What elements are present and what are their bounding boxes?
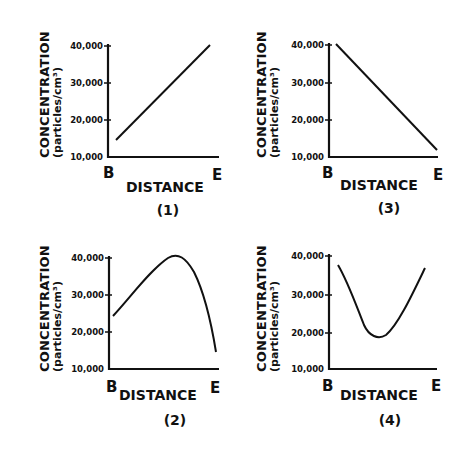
panel-number: (4) <box>379 412 402 428</box>
x-start-label: B <box>322 377 333 395</box>
tick-20000: 20,000 <box>70 115 103 125</box>
x-start-label: B <box>322 164 333 182</box>
tick-30000: 30,000 <box>291 78 324 88</box>
y-axis-label: CONCENTRATION <box>37 245 52 372</box>
tick-10000: 10,000 <box>70 152 103 162</box>
x-end-label: E <box>210 379 220 397</box>
tick-10000: 10,000 <box>291 152 324 162</box>
panel-3: CONCENTRATION (particles/cm³) 40,000 30,… <box>254 31 443 216</box>
tick-40000: 40,000 <box>71 253 104 263</box>
x-start-label: B <box>106 378 117 396</box>
tick-10000: 10,000 <box>71 364 104 374</box>
x-end-label: E <box>212 166 222 184</box>
y-axis-label: CONCENTRATION <box>254 245 269 372</box>
x-axis-label: DISTANCE <box>126 179 204 195</box>
y-axis-unit: (particles/cm³) <box>51 67 64 158</box>
panel-1: CONCENTRATION (particles/cm³) 40,000 30,… <box>37 31 222 218</box>
y-axis-unit: (particles/cm³) <box>268 281 281 372</box>
x-end-label: E <box>431 377 441 395</box>
tick-40000: 40,000 <box>291 251 324 261</box>
panel-2: CONCENTRATION (particles/cm³) 40,000 30,… <box>37 245 220 428</box>
x-axis-label: DISTANCE <box>340 177 418 193</box>
tick-30000: 30,000 <box>70 78 103 88</box>
data-line <box>338 265 425 337</box>
x-start-label: B <box>103 164 114 182</box>
tick-10000: 10,000 <box>291 364 324 374</box>
tick-30000: 30,000 <box>71 290 104 300</box>
y-axis-unit: (particles/cm³) <box>51 281 64 372</box>
y-axis-unit: (particles/cm³) <box>268 67 281 158</box>
panel-number: (3) <box>378 200 401 216</box>
x-axis-label: DISTANCE <box>119 387 197 403</box>
panel-number: (2) <box>164 412 187 428</box>
tick-20000: 20,000 <box>291 328 324 338</box>
data-line <box>113 256 216 352</box>
tick-20000: 20,000 <box>71 327 104 337</box>
panel-number: (1) <box>157 202 180 218</box>
data-line <box>336 44 437 150</box>
figure: CONCENTRATION (particles/cm³) 40,000 30,… <box>0 0 463 460</box>
panel-4: CONCENTRATION (particles/cm³) 40,000 30,… <box>254 245 441 428</box>
tick-30000: 30,000 <box>291 290 324 300</box>
tick-20000: 20,000 <box>291 115 324 125</box>
x-end-label: E <box>433 166 443 184</box>
x-axis-label: DISTANCE <box>340 387 418 403</box>
tick-40000: 40,000 <box>291 40 324 50</box>
tick-40000: 40,000 <box>70 41 103 51</box>
y-axis-label: CONCENTRATION <box>254 31 269 158</box>
data-line <box>116 45 210 140</box>
y-axis-label: CONCENTRATION <box>37 31 52 158</box>
